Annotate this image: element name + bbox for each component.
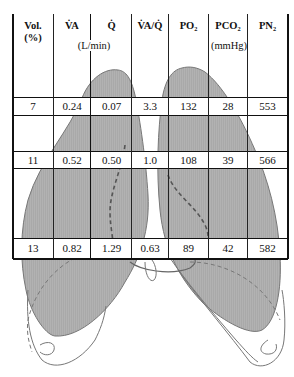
table-line: [13, 258, 288, 260]
column-divider: [53, 14, 54, 258]
cell-q: 1.29: [92, 240, 131, 257]
header-po2: PO₂: [169, 20, 208, 32]
header-q: Q̇: [92, 20, 131, 32]
column-divider: [131, 14, 132, 258]
lung-diagram: [0, 0, 294, 377]
cell-pco2: 28: [209, 98, 247, 115]
cell-pco2: 42: [209, 240, 247, 257]
cell-q: 0.50: [92, 152, 131, 169]
cell-va-q: 0.63: [132, 240, 168, 257]
header-vol: Vol.(%): [13, 20, 53, 44]
cell-po2: 132: [169, 98, 208, 115]
left-costophrenic-curl: [40, 343, 54, 355]
cell-vol: 7: [13, 98, 53, 115]
unit-pressure: (mmHg): [204, 40, 254, 51]
header-va: V̇A: [54, 20, 90, 32]
unit-flow: (L/min): [66, 40, 122, 51]
cell-va: 0.82: [54, 240, 90, 257]
table-border-right: [287, 14, 289, 259]
cell-vol: 11: [13, 152, 53, 169]
cell-pco2: 39: [209, 152, 247, 169]
cell-va: 0.52: [54, 152, 90, 169]
cell-po2: 108: [169, 152, 208, 169]
cell-q: 0.07: [92, 98, 131, 115]
header-pn2: PN₂: [248, 20, 287, 32]
cell-vol: 13: [13, 240, 53, 257]
cell-po2: 89: [169, 240, 208, 257]
cell-va-q: 1.0: [132, 152, 168, 169]
column-divider: [168, 14, 169, 258]
cell-pn2: 553: [248, 98, 287, 115]
cell-va: 0.24: [54, 98, 90, 115]
table-border-left: [12, 14, 14, 259]
cell-pn2: 566: [248, 152, 287, 169]
cell-va-q: 3.3: [132, 98, 168, 115]
header-va-q: V̇A/Q̇: [132, 20, 168, 32]
right-costophrenic-curl: [261, 340, 277, 354]
cell-pn2: 582: [248, 240, 287, 257]
header-pco2: PCO₂: [209, 20, 247, 32]
